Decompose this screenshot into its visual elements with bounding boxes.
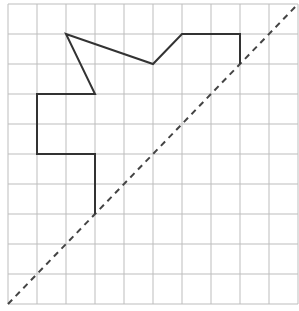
grid-diagram <box>0 0 299 311</box>
grid-diagram-svg <box>0 0 299 311</box>
